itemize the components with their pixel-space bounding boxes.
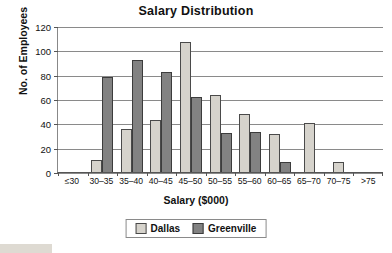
bar-dallas — [180, 42, 191, 172]
y-axis-tick-label: 100 — [35, 46, 51, 57]
bar-greenville — [161, 72, 172, 172]
bar-group — [294, 27, 324, 172]
x-axis-tick-label: 55–60 — [235, 176, 265, 190]
bar-dallas — [121, 129, 132, 172]
legend-item-greenville[interactable]: Greenville — [193, 223, 256, 234]
x-axis-tick-label: 40–45 — [146, 176, 176, 190]
bar-greenville — [250, 132, 261, 172]
legend-item-dallas[interactable]: Dallas — [136, 223, 180, 234]
chart-title: Salary Distribution — [0, 4, 392, 18]
x-axis-tick-label: 60–65 — [264, 176, 294, 190]
x-axis-tick-label: >75 — [353, 176, 383, 190]
bar-greenville — [221, 133, 232, 172]
bar-groups — [58, 27, 383, 172]
scan-artifact — [0, 244, 52, 253]
bar-dallas — [91, 160, 102, 172]
gridline — [58, 173, 383, 174]
bar-dallas — [210, 95, 221, 172]
legend-label: Greenville — [208, 223, 256, 234]
legend-label: Dallas — [151, 223, 180, 234]
x-axis-tick-label: 50–55 — [205, 176, 235, 190]
x-axis-tick-label: ≤30 — [57, 176, 87, 190]
bar-dallas — [333, 162, 344, 172]
y-axis-tick-label: 120 — [35, 22, 51, 33]
bar-greenville — [280, 162, 291, 172]
legend-swatch-icon — [136, 223, 147, 234]
bar-group — [147, 27, 177, 172]
x-axis-title: Salary ($000) — [0, 194, 392, 206]
bar-group — [353, 27, 383, 172]
bar-group — [235, 27, 265, 172]
chart-legend: DallasGreenville — [126, 219, 267, 238]
bar-greenville — [132, 60, 143, 172]
x-axis-tick-label: 30–35 — [87, 176, 117, 190]
y-axis-tick-label: 20 — [40, 143, 51, 154]
bar-group — [88, 27, 118, 172]
bar-dallas — [239, 114, 250, 172]
y-axis-tick-label: 80 — [40, 70, 51, 81]
bar-group — [58, 27, 88, 172]
chart-container: Salary Distribution No. of Employees 020… — [0, 0, 392, 253]
bar-group — [324, 27, 354, 172]
bar-greenville — [191, 97, 202, 172]
x-axis-tick-label: 45–50 — [176, 176, 206, 190]
x-axis-tick-labels: ≤3030–3535–4040–4545–5050–5555–6060–6565… — [57, 176, 383, 190]
y-axis-tick-label: 60 — [40, 95, 51, 106]
bar-dallas — [304, 123, 315, 172]
bar-group — [117, 27, 147, 172]
bar-dallas — [150, 120, 161, 172]
bar-dallas — [269, 134, 280, 172]
y-axis-title: No. of Employees — [17, 0, 29, 116]
x-axis-tick-label: 35–40 — [116, 176, 146, 190]
bar-group — [176, 27, 206, 172]
x-axis-tick-label: 70–75 — [324, 176, 354, 190]
x-axis-tick-label: 65–70 — [294, 176, 324, 190]
y-axis-tick-label: 0 — [46, 168, 51, 179]
bar-group — [206, 27, 236, 172]
y-axis-tick-label: 40 — [40, 119, 51, 130]
bar-group — [265, 27, 295, 172]
bar-greenville — [102, 77, 113, 172]
plot-area: 020406080100120 — [57, 27, 383, 173]
legend-swatch-icon — [193, 223, 204, 234]
